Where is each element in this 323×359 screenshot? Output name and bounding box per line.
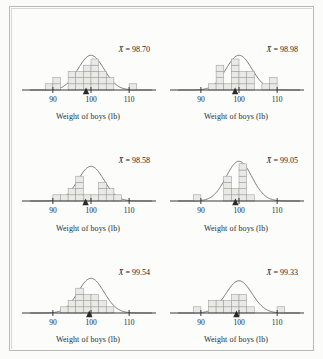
histogram-cell	[231, 294, 239, 300]
axis-label-3: Weight of boys (lb)	[14, 224, 162, 233]
tick-label: 100	[85, 318, 97, 327]
panel-6: 90100110X̄ = 99.33 Weight of boys (lb)	[162, 235, 310, 346]
histogram-cell	[76, 189, 84, 195]
histogram-cell	[68, 306, 76, 312]
histogram-cell	[76, 71, 84, 77]
histogram-chart-1: 90100110X̄ = 98.70	[14, 12, 162, 123]
histogram-cell	[239, 84, 247, 90]
histogram-cell	[224, 177, 232, 183]
tick-label: 110	[124, 318, 135, 327]
histogram-cell	[53, 195, 61, 201]
histogram-cell	[239, 177, 247, 183]
histogram-cell	[91, 71, 99, 77]
histogram-cell	[216, 65, 224, 71]
histogram-cell	[209, 300, 217, 306]
figure-page: 90100110X̄ = 98.70 Weight of boys (lb) 9…	[0, 0, 323, 359]
histogram-cell	[99, 183, 107, 189]
histogram-cell	[91, 84, 99, 90]
histogram-cell	[76, 183, 84, 189]
histogram-cell	[99, 306, 107, 312]
histogram-bars	[193, 164, 254, 201]
histogram-cell	[68, 195, 76, 201]
panel-1: 90100110X̄ = 98.70 Weight of boys (lb)	[14, 12, 162, 123]
histogram-cell	[83, 71, 91, 77]
mean-label: X̄ = 99.05	[266, 156, 298, 165]
histogram-cell	[99, 195, 107, 201]
mean-label: X̄ = 98.58	[118, 156, 150, 165]
histogram-chart-5: 90100110X̄ = 99.54	[14, 235, 162, 346]
histogram-cell	[76, 288, 84, 294]
histogram-cell	[106, 78, 114, 84]
histogram-bars	[61, 288, 114, 313]
histogram-cell	[224, 189, 232, 195]
histogram-cell	[209, 84, 217, 90]
histogram-cell	[231, 71, 239, 77]
histogram-cell	[239, 300, 247, 306]
axis-label-5: Weight of boys (lb)	[14, 335, 162, 344]
histogram-cell	[231, 306, 239, 312]
histogram-cell	[224, 306, 232, 312]
histogram-cell	[53, 84, 61, 90]
tick-label: 100	[233, 206, 245, 215]
histogram-cell	[106, 306, 114, 312]
histogram-chart-2: 90100110X̄ = 98.98	[162, 12, 310, 123]
histogram-cell	[83, 294, 91, 300]
histogram-cell	[76, 84, 84, 90]
histogram-cell	[99, 300, 107, 306]
histogram-cell	[68, 78, 76, 84]
histogram-cell	[99, 71, 107, 77]
histogram-cell	[216, 71, 224, 77]
histogram-cell	[224, 84, 232, 90]
histogram-cell	[224, 195, 232, 201]
histogram-cell	[91, 195, 99, 201]
axis-label-1: Weight of boys (lb)	[14, 112, 162, 121]
panel-2: 90100110X̄ = 98.98 Weight of boys (lb)	[162, 12, 310, 123]
panel-grid: 90100110X̄ = 98.70 Weight of boys (lb) 9…	[14, 12, 310, 346]
histogram-chart-4: 90100110X̄ = 99.05	[162, 123, 310, 234]
histogram-cell	[239, 294, 247, 300]
histogram-cell	[270, 78, 278, 84]
panel-5: 90100110X̄ = 99.54 Weight of boys (lb)	[14, 235, 162, 346]
histogram-cell	[76, 78, 84, 84]
histogram-cell	[114, 195, 122, 201]
histogram-cell	[216, 78, 224, 84]
histogram-cell	[83, 300, 91, 306]
axis-label-4: Weight of boys (lb)	[162, 224, 310, 233]
mean-label: X̄ = 98.70	[118, 45, 150, 54]
tick-label: 110	[124, 95, 135, 104]
histogram-cell	[224, 183, 232, 189]
histogram-cell	[61, 306, 69, 312]
histogram-cell	[76, 177, 84, 183]
histogram-cell	[129, 84, 137, 90]
histogram-cell	[193, 195, 201, 201]
tick-label: 110	[272, 206, 283, 215]
histogram-cell	[239, 78, 247, 84]
histogram-cell	[247, 306, 255, 312]
histogram-cell	[99, 189, 107, 195]
histogram-cell	[91, 306, 99, 312]
tick-label: 100	[233, 318, 245, 327]
histogram-cell	[262, 84, 270, 90]
histogram-cell	[224, 300, 232, 306]
histogram-cell	[68, 300, 76, 306]
histogram-cell	[83, 65, 91, 71]
tick-label: 90	[197, 318, 205, 327]
histogram-bars	[209, 59, 278, 90]
histogram-cell	[216, 306, 224, 312]
histogram-cell	[68, 71, 76, 77]
axis-label-6: Weight of boys (lb)	[162, 335, 310, 344]
histogram-bars	[53, 177, 122, 202]
histogram-cell	[99, 84, 107, 90]
axis-label-2: Weight of boys (lb)	[162, 112, 310, 121]
histogram-cell	[239, 164, 247, 170]
histogram-cell	[106, 189, 114, 195]
tick-label: 110	[272, 318, 283, 327]
histogram-cell	[76, 294, 84, 300]
tick-label: 110	[272, 95, 283, 104]
mean-label: X̄ = 99.54	[118, 268, 150, 277]
histogram-cell	[270, 84, 278, 90]
tick-label: 90	[49, 318, 57, 327]
histogram-cell	[231, 59, 239, 65]
histogram-cell	[231, 65, 239, 71]
tick-label: 90	[197, 206, 205, 215]
